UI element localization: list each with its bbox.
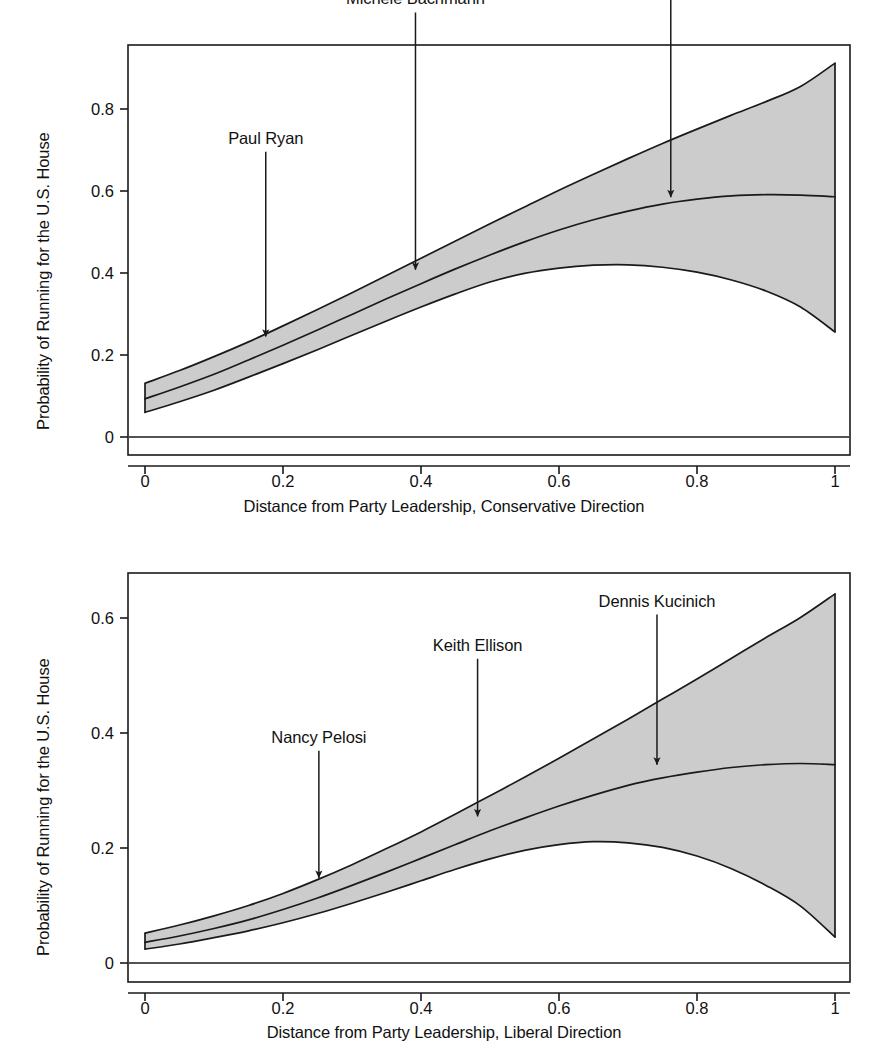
confidence-band-group-conservative — [145, 63, 835, 412]
x-tick-label-1: 1 — [830, 472, 839, 491]
y-tick-label-0: 0 — [105, 954, 114, 973]
chart-liberal-plot — [0, 526, 888, 1052]
x-tick-label-0.4: 0.4 — [410, 999, 433, 1018]
x-tick-label-0.8: 0.8 — [686, 472, 709, 491]
annotation-label-2: Dennis Kucinich — [599, 592, 716, 611]
x-tick-label-1: 1 — [830, 999, 839, 1018]
x-tick-label-0.8: 0.8 — [686, 999, 709, 1018]
x-tick-label-0.6: 0.6 — [548, 472, 571, 491]
y-tick-label-0.6: 0.6 — [91, 182, 114, 201]
y-tick-label-0.4: 0.4 — [91, 724, 114, 743]
panel-conservative: Probability of Running for the U.S. Hous… — [0, 0, 888, 526]
x-tick-label-0.2: 0.2 — [272, 999, 295, 1018]
x-tick-label-0.6: 0.6 — [548, 999, 571, 1018]
annotation-label-0: Nancy Pelosi — [271, 728, 366, 747]
y-tick-label-0.2: 0.2 — [91, 346, 114, 365]
y-axis-label-conservative: Probability of Running for the U.S. Hous… — [34, 132, 53, 430]
annotation-label-1: Michele Bachmann — [346, 0, 485, 8]
panel-liberal: Probability of Running for the U.S. Hous… — [0, 526, 888, 1052]
x-tick-label-0: 0 — [140, 472, 149, 491]
x-axis-label-conservative: Distance from Party Leadership, Conserva… — [0, 497, 888, 516]
x-tick-label-0: 0 — [140, 999, 149, 1018]
y-axis-label-liberal: Probability of Running for the U.S. Hous… — [34, 658, 53, 956]
y-tick-label-0: 0 — [105, 428, 114, 447]
x-tick-label-0.4: 0.4 — [410, 472, 433, 491]
annotation-label-1: Keith Ellison — [433, 636, 523, 655]
chart-conservative-plot — [0, 0, 888, 526]
y-tick-label-0.6: 0.6 — [91, 609, 114, 628]
figure-two-panel-probability-of-running: Probability of Running for the U.S. Hous… — [0, 0, 888, 1052]
x-tick-label-0.2: 0.2 — [272, 472, 295, 491]
x-axis-label-liberal: Distance from Party Leadership, Liberal … — [0, 1023, 888, 1042]
y-tick-label-0.8: 0.8 — [91, 100, 114, 119]
y-tick-label-0.4: 0.4 — [91, 264, 114, 283]
ci-lower-line — [145, 265, 835, 413]
y-tick-label-0.2: 0.2 — [91, 839, 114, 858]
annotation-label-0: Paul Ryan — [228, 129, 303, 148]
